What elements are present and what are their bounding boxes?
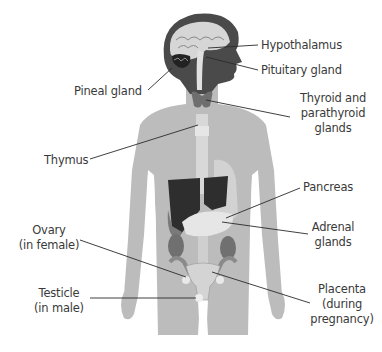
label-pancreas: Pancreas (303, 180, 353, 195)
label-hypothalamus: Hypothalamus (261, 38, 342, 53)
label-thyroid-parathyroid: Thyroid and parathyroid glands (288, 91, 378, 136)
label-pituitary-gland: Pituitary gland (261, 63, 342, 78)
label-ovary: Ovary (in female) (14, 223, 84, 253)
label-adrenal-glands: Adrenal glands (305, 220, 361, 250)
kidney-left (168, 234, 184, 258)
label-thymus: Thymus (44, 153, 88, 168)
label-pineal-gland: Pineal gland (74, 84, 142, 99)
label-placenta: Placenta (during pregnancy) (306, 282, 378, 327)
testicle (195, 294, 203, 302)
label-testicle: Testicle (in male) (28, 286, 90, 316)
endocrine-system-diagram: Hypothalamus Pituitary gland Pineal glan… (0, 0, 382, 352)
head (164, 13, 242, 94)
